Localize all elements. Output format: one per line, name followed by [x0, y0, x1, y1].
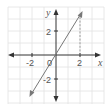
x-tick-label-pos2: 2 — [77, 58, 82, 68]
y-axis-down-arrow-icon — [54, 96, 59, 102]
y-axis-label: y — [45, 7, 51, 18]
x-axis-left-arrow-icon — [8, 53, 14, 58]
x-tick-label-neg2: -2 — [26, 58, 34, 68]
x-axis-label: x — [97, 57, 103, 68]
y-tick-label-neg2: -2 — [43, 75, 51, 85]
y-axis-up-arrow-icon — [54, 9, 59, 15]
coordinate-plane: -2 0 2 x y 2 -2 — [0, 0, 108, 105]
y-tick-label-pos2: 2 — [46, 27, 51, 37]
origin-label: 0 — [47, 58, 52, 68]
